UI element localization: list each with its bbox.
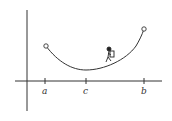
function-graph: a c b [0, 0, 172, 121]
tick-label-a: a [42, 86, 47, 96]
right-endpoint [142, 27, 146, 31]
left-endpoint [44, 44, 48, 48]
tick-label-c: c [83, 86, 88, 96]
tick-label-b: b [141, 86, 147, 96]
hiker-figure [106, 47, 114, 62]
curve [46, 29, 144, 70]
